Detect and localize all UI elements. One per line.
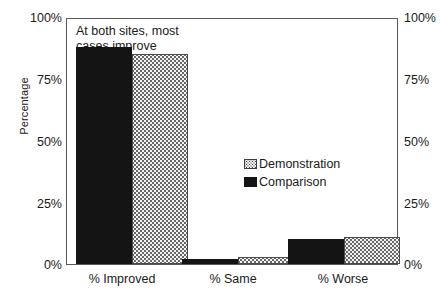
y-tick-label-right-0: 0% — [404, 259, 422, 271]
bar-comparison-worse — [288, 239, 344, 264]
y-tick-label-left-0: 0% — [44, 259, 62, 271]
legend-item-comparison: Comparison — [244, 174, 340, 190]
x-category-label-improved: % Improved — [66, 272, 178, 286]
bar-comparison-improved — [76, 47, 132, 264]
x-category-label-same: % Same — [177, 272, 289, 286]
y-tick-label-right-100: 100% — [404, 12, 436, 24]
bar-demonstration-improved — [132, 54, 188, 264]
legend-swatch-comparison-icon — [244, 177, 257, 187]
x-category-label-worse: % Worse — [287, 272, 399, 286]
plot-area: At both sites, most cases improve Demons… — [66, 18, 398, 265]
y-tick-label-left-25: 25% — [37, 198, 62, 210]
y-tick-label-right-75: 75% — [404, 74, 429, 86]
y-tick-label-right-50: 50% — [404, 136, 429, 148]
legend-item-demonstration: Demonstration — [244, 156, 340, 172]
bar-demonstration-same — [238, 257, 294, 264]
y-tick-label-left-100: 100% — [30, 12, 62, 24]
legend-label-comparison: Comparison — [259, 175, 326, 189]
y-tick-label-right-25: 25% — [404, 198, 429, 210]
bar-chart: Percentage 100% 75% 50% 25% 0% 100% 75% … — [0, 0, 446, 297]
bar-demonstration-worse — [344, 237, 400, 264]
y-tick-label-left-75: 75% — [37, 74, 62, 86]
y-axis-title: Percentage — [18, 46, 30, 166]
y-tick-label-left-50: 50% — [37, 136, 62, 148]
chart-legend: Demonstration Comparison — [244, 156, 340, 192]
bar-comparison-same — [182, 259, 238, 264]
legend-label-demonstration: Demonstration — [259, 157, 340, 171]
legend-swatch-demonstration-icon — [244, 159, 257, 169]
